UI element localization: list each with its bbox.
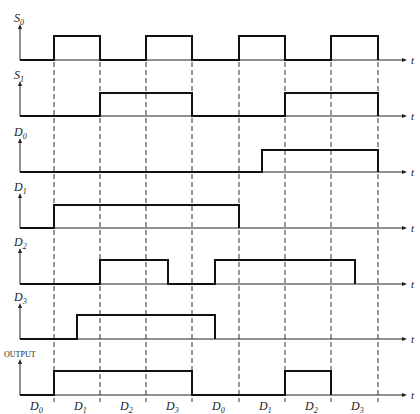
signal-label: S0: [14, 11, 24, 27]
axis-arrow-icon: [18, 359, 22, 364]
signal-label: D2: [13, 235, 27, 251]
signal-label: S1: [14, 68, 24, 84]
signal-d1: tD1: [13, 180, 415, 234]
signal-label: D1: [13, 180, 27, 196]
signal-s1: tS1: [14, 68, 415, 122]
waveform: [20, 260, 355, 284]
waveform: [20, 150, 378, 172]
signal-label: D3: [13, 290, 27, 306]
axis-arrow-icon: [402, 282, 407, 286]
signal-d3: tD3: [13, 290, 415, 345]
waveform: [20, 371, 331, 395]
time-axis-label: t: [411, 166, 415, 178]
time-axis-label: t: [411, 54, 415, 66]
signal-d2: tD2: [13, 235, 415, 290]
axis-arrow-icon: [402, 393, 407, 397]
slot-label: D0: [29, 399, 43, 414]
time-axis-label: t: [411, 333, 415, 345]
slot-guides: [54, 62, 378, 402]
axis-arrow-icon: [402, 226, 407, 230]
slot-label: D2: [119, 399, 133, 414]
axis-arrow-icon: [402, 58, 407, 62]
axis-arrow-icon: [402, 170, 407, 174]
signal-label: D0: [13, 125, 27, 141]
waveform: [20, 315, 215, 339]
waveform: [20, 93, 378, 116]
signal-output: tOUTPUT: [4, 350, 415, 401]
time-axis-label: t: [411, 278, 415, 290]
axis-arrow-icon: [402, 337, 407, 341]
signal-d0: tD0: [13, 125, 415, 178]
time-axis-label: t: [411, 110, 415, 122]
slot-label: D3: [350, 399, 364, 414]
axis-arrow-icon: [402, 114, 407, 118]
signal-label: OUTPUT: [4, 350, 36, 359]
waveform: [20, 205, 239, 228]
timing-diagram: tS0tS1tD0tD1tD2tD3tOUTPUTD0D1D2D3D0D1D2D…: [0, 0, 420, 414]
data-slot-labels: D0D1D2D3D0D1D2D3: [29, 399, 364, 414]
signal-s0: tS0: [14, 11, 415, 66]
slot-label: D2: [304, 399, 318, 414]
waveform: [20, 36, 378, 60]
slot-label: D1: [73, 399, 87, 414]
slot-label: D3: [165, 399, 179, 414]
time-axis-label: t: [411, 222, 415, 234]
slot-label: D1: [258, 399, 272, 414]
time-axis-label: t: [411, 389, 415, 401]
slot-label: D0: [211, 399, 225, 414]
